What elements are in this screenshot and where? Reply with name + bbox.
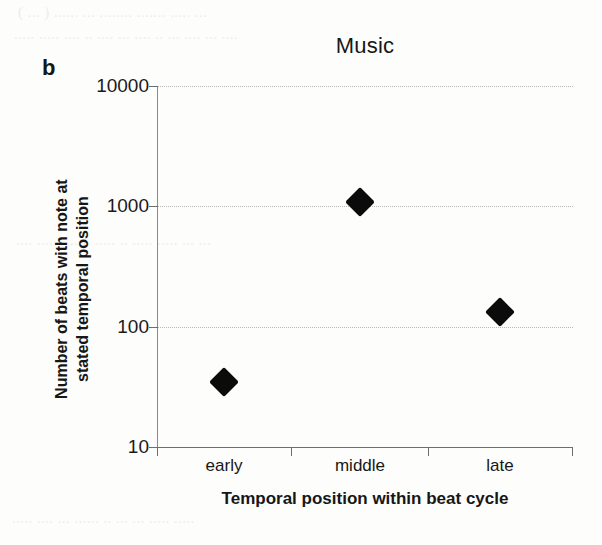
x-category-label-middle: middle bbox=[290, 456, 430, 476]
x-category-label-late: late bbox=[430, 456, 570, 476]
x-tick-mark-0 bbox=[157, 447, 158, 456]
gridline-100 bbox=[157, 327, 573, 328]
data-point-early[interactable] bbox=[209, 367, 239, 397]
y-tick-label-1000: 1000 bbox=[9, 195, 149, 217]
x-category-label-early: early bbox=[154, 456, 294, 476]
x-tick-mark-3 bbox=[572, 447, 573, 456]
y-tick-label-10000: 10000 bbox=[9, 75, 149, 97]
data-point-middle[interactable] bbox=[345, 187, 375, 217]
x-axis-line bbox=[157, 447, 573, 448]
x-axis-title: Temporal position within beat cycle bbox=[157, 489, 573, 509]
y-tick-mark-10 bbox=[149, 447, 158, 448]
x-tick-mark-2 bbox=[428, 447, 429, 456]
y-tick-mark-1000 bbox=[149, 206, 158, 207]
chart-title: Music bbox=[157, 33, 573, 59]
y-tick-label-10: 10 bbox=[9, 436, 149, 458]
y-axis-ticks: 10000 1000 100 10 bbox=[0, 0, 149, 545]
gridline-10000 bbox=[157, 86, 573, 87]
data-point-late[interactable] bbox=[485, 297, 515, 327]
y-tick-mark-100 bbox=[149, 327, 158, 328]
y-axis-line bbox=[157, 86, 158, 448]
y-tick-mark-10000 bbox=[149, 86, 158, 87]
figure-panel: ( ... ) ...... ... ........ ....... ....… bbox=[0, 0, 602, 545]
x-tick-mark-1 bbox=[291, 447, 292, 456]
y-tick-label-100: 100 bbox=[9, 316, 149, 338]
plot-area bbox=[157, 86, 573, 447]
